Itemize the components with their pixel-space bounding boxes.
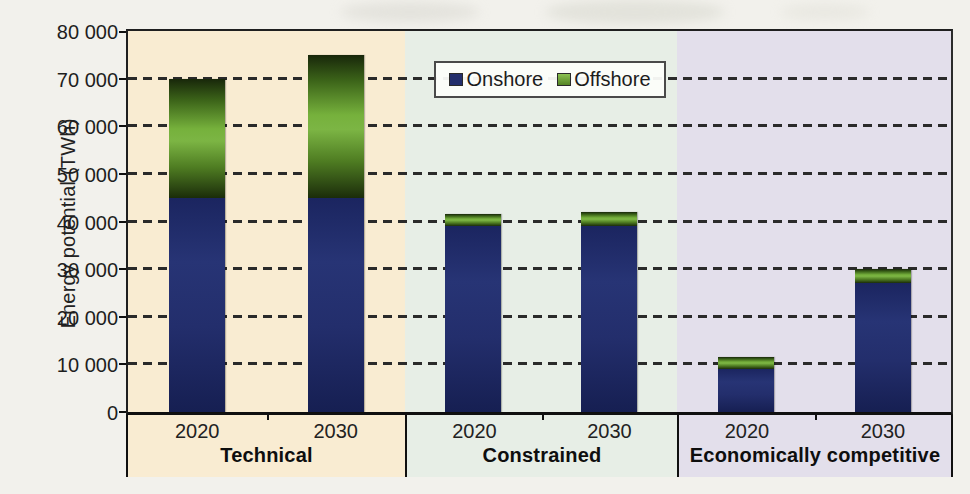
y-axis-tick-labels: 010 00020 00030 00040 00050 00060 00070 … (0, 29, 118, 415)
bar-segment-offshore (718, 357, 774, 369)
bar-constrained-2030 (581, 212, 637, 412)
gridline-20000 (128, 315, 951, 318)
wind-energy-potential-chart: Energy potential (TWh) 010 00020 00030 0… (0, 0, 970, 494)
y-tick-mark (119, 268, 126, 270)
scan-artifact (340, 2, 480, 22)
bar-segment-offshore (308, 55, 364, 198)
bar-segment-offshore (581, 212, 637, 226)
bar-segment-onshore (718, 369, 774, 412)
bar-segment-onshore (581, 226, 637, 412)
bar-economically-competitive-2020 (718, 357, 774, 412)
category-label-constrained: Constrained (407, 444, 677, 467)
offshore-legend-label: Offshore (574, 68, 650, 91)
bar-segment-onshore (445, 226, 501, 412)
year-label-economically-competitive-2030: 2030 (815, 420, 951, 443)
band-section-technical: 20202030Technical (128, 415, 405, 477)
gridline-40000 (128, 220, 951, 223)
bar-economically-competitive-2030 (855, 269, 911, 412)
y-tick-mark (119, 221, 126, 223)
bar-segment-offshore (855, 269, 911, 283)
legend-item-onshore: Onshore (449, 68, 543, 91)
gridline-50000 (128, 172, 951, 175)
onshore-swatch-icon (449, 73, 463, 86)
year-label-technical-2020: 2020 (128, 420, 267, 443)
y-tick-label-70000: 70 000 (0, 69, 118, 92)
category-label-technical: Technical (128, 444, 405, 467)
scan-artifact (780, 4, 870, 20)
band-section-constrained: 20202030Constrained (405, 415, 677, 477)
bar-segment-offshore (445, 214, 501, 226)
onshore-legend-label: Onshore (466, 68, 543, 91)
y-tick-label-80000: 80 000 (0, 21, 118, 44)
year-label-constrained-2020: 2020 (407, 420, 542, 443)
y-tick-mark (119, 411, 126, 413)
legend-item-offshore: Offshore (557, 68, 650, 91)
y-tick-mark (119, 316, 126, 318)
y-tick-mark (119, 78, 126, 80)
y-tick-mark (119, 31, 126, 33)
y-tick-mark (119, 125, 126, 127)
x-axis-midpoint-tick (267, 412, 269, 420)
y-tick-label-40000: 40 000 (0, 212, 118, 235)
gridline-30000 (128, 267, 951, 270)
bar-technical-2020 (169, 79, 225, 412)
legend: Onshore Offshore (434, 61, 666, 98)
year-label-technical-2030: 2030 (267, 420, 406, 443)
y-tick-label-50000: 50 000 (0, 164, 118, 187)
x-axis-midpoint-tick (815, 412, 817, 420)
offshore-swatch-icon (557, 73, 571, 86)
plot-area: Onshore Offshore (126, 29, 953, 415)
y-tick-label-10000: 10 000 (0, 354, 118, 377)
y-tick-label-20000: 20 000 (0, 307, 118, 330)
y-tick-label-60000: 60 000 (0, 116, 118, 139)
gridline-10000 (128, 362, 951, 365)
y-tick-label-30000: 30 000 (0, 259, 118, 282)
y-tick-mark (119, 173, 126, 175)
x-axis-band: 20202030Technical20202030Constrained2020… (126, 415, 953, 477)
gridline-60000 (128, 124, 951, 127)
y-tick-label-0: 0 (0, 402, 118, 425)
category-label-economically-competitive: Economically competitive (679, 444, 951, 467)
band-section-economically-competitive: 20202030Economically competitive (677, 415, 951, 477)
bar-segment-onshore (855, 283, 911, 412)
y-tick-mark (119, 363, 126, 365)
year-label-economically-competitive-2020: 2020 (679, 420, 815, 443)
x-axis-midpoint-tick (542, 412, 544, 420)
bar-segment-onshore (169, 198, 225, 412)
bar-constrained-2020 (445, 214, 501, 412)
year-label-constrained-2030: 2030 (542, 420, 677, 443)
bar-segment-offshore (169, 79, 225, 198)
bar-segment-onshore (308, 198, 364, 412)
scan-artifact (545, 0, 725, 24)
bar-technical-2030 (308, 55, 364, 412)
